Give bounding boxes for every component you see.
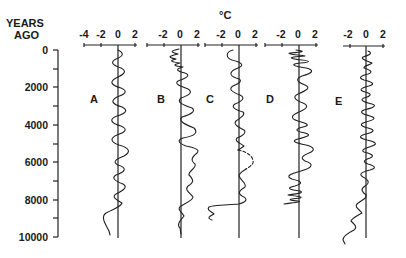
panel-c-curve-solid-bottom (208, 169, 246, 220)
panel-b-axes (147, 43, 200, 238)
panel-a-axes (84, 43, 137, 238)
panel-a-curve (103, 50, 128, 235)
panel-b-curve (170, 49, 198, 234)
panel-c-curve-dashed (238, 150, 253, 169)
plot-canvas (0, 0, 406, 258)
panel-c-curve-solid-top (227, 50, 245, 150)
panel-e-axes (343, 44, 385, 238)
panel-d-axes (265, 43, 318, 238)
chart-figure: YEARS AGO °C 0 2000 4000 6000 8000 10000… (0, 0, 406, 258)
y-axis-ticks (53, 50, 58, 237)
panel-e-curve (343, 51, 375, 244)
